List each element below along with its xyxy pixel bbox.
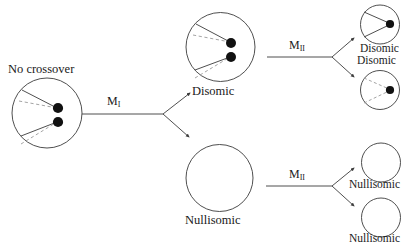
cell-membrane-circle <box>186 145 253 212</box>
disomic-gamete-1 <box>361 5 400 44</box>
chromatid-arm-solid-upper <box>196 24 230 42</box>
chromatid-arm-solid-upper <box>364 12 389 23</box>
meiosis-two-upper-connector <box>267 38 354 77</box>
diagram-canvas <box>0 0 414 246</box>
chromatid-arm-dashed-upper <box>193 35 230 42</box>
meiosis-segregation-diagram: No crossover Disomic Nullisomic Disomic … <box>0 0 414 246</box>
centromere-dot-upper <box>53 103 63 113</box>
label-meiosis-two-lower: MII <box>289 167 305 182</box>
chromatid-arm-solid-lower <box>195 57 230 70</box>
label-nullisomic-gamete-1: Nullisomic <box>349 178 400 190</box>
meiosis-two-upper-branch-a-arrow <box>332 38 354 57</box>
label-disomic-mid: Disomic <box>192 84 234 99</box>
no-crossover-cell <box>12 78 82 148</box>
meiosis-one-branch-upper-arrow <box>163 93 190 114</box>
chromatid-arm-dashed-lower <box>195 57 230 78</box>
centromere-dot-lower <box>53 117 63 127</box>
label-meiosis-one: MI <box>107 94 120 109</box>
label-no-crossover: No crossover <box>8 62 74 77</box>
meiosis-two-upper-letter: M <box>289 38 300 52</box>
meiosis-two-upper-branch-b-arrow <box>332 57 354 77</box>
chromatid-arm-dashed-upper <box>364 78 389 89</box>
meiosis-one-connector <box>82 93 190 137</box>
chromatid-arm-dashed-lower <box>364 91 389 103</box>
meiosis-one-letter: M <box>107 94 118 108</box>
label-disomic-gamete-1: Disomic <box>360 42 399 54</box>
disomic-cell-mid <box>186 13 255 82</box>
chromatid-arm-solid-lower <box>21 122 57 136</box>
meiosis-one-branch-lower-arrow <box>163 114 189 137</box>
nullisomic-cell-mid <box>186 145 253 212</box>
centromere-dot <box>386 20 394 28</box>
chromatid-arm-dashed-upper <box>19 101 57 108</box>
centromere-dot-lower <box>226 52 236 62</box>
cell-membrane-circle <box>12 78 82 148</box>
chromatid-arm-dashed-lower <box>21 122 57 144</box>
chromatid-arm-solid-upper <box>22 90 57 108</box>
label-nullisomic-gamete-2: Nullisomic <box>349 232 400 244</box>
centromere-dot-upper <box>226 38 236 48</box>
label-disomic-gamete-2: Disomic <box>357 54 396 66</box>
centromere-dot <box>386 86 394 94</box>
cell-membrane-circle <box>186 13 255 82</box>
nullisomic-gamete-1 <box>362 143 401 182</box>
cell-membrane-circle <box>362 143 401 182</box>
label-meiosis-two-upper: MII <box>289 38 305 53</box>
meiosis-two-lower-letter: M <box>289 167 300 181</box>
meiosis-one-subscript: I <box>118 100 121 109</box>
meiosis-two-lower-connector <box>266 168 354 206</box>
chromatid-arm-solid-lower <box>364 25 389 37</box>
label-nullisomic-mid: Nullisomic <box>185 213 241 228</box>
meiosis-two-lower-subscript: II <box>300 173 305 182</box>
disomic-gamete-2 <box>361 71 400 110</box>
meiosis-two-upper-subscript: II <box>300 44 305 53</box>
